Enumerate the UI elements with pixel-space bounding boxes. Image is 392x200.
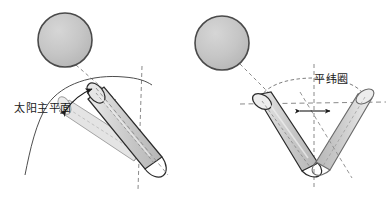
right-panel-label: 平纬圈 xyxy=(314,73,349,86)
diagram-svg: 太阳主平面 平纬 xyxy=(0,0,392,200)
left-panel-label: 太阳主平面 xyxy=(14,102,72,115)
left-sphere xyxy=(38,13,92,67)
diagram-canvas: 太阳主平面 平纬 xyxy=(0,0,392,200)
right-sphere xyxy=(195,16,249,70)
